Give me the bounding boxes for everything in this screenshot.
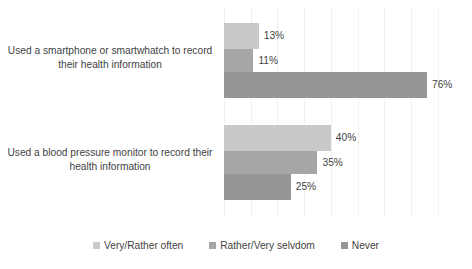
legend-swatch-icon-2 xyxy=(341,242,348,249)
legend-label-1: Rather/Very selvdom xyxy=(220,240,315,251)
category-label-0: Used a smartphone or smartwhatch to reco… xyxy=(4,44,216,71)
legend-label-2: Never xyxy=(352,240,379,251)
legend-item-1[interactable]: Rather/Very selvdom xyxy=(209,240,315,251)
legend-label-0: Very/Rather often xyxy=(104,240,183,251)
legend-item-2[interactable]: Never xyxy=(341,240,379,251)
bar-1-0 xyxy=(224,125,331,151)
horizontal-bar-chart: Used a smartphone or smartwhatch to reco… xyxy=(0,0,472,269)
bar-value-label-0-0: 13% xyxy=(264,31,284,41)
bar-value-label-0-1: 11% xyxy=(258,56,278,66)
bar-value-label-1-1: 35% xyxy=(322,158,342,168)
legend-swatch-icon-1 xyxy=(209,242,216,249)
gridline xyxy=(411,8,412,217)
gridline xyxy=(384,8,385,217)
gridline xyxy=(331,8,332,217)
plot-area: 13%11%76%40%35%25% xyxy=(224,8,470,217)
gridline xyxy=(438,8,439,217)
legend-swatch-icon-0 xyxy=(93,242,100,249)
category-label-1: Used a blood pressure monitor to record … xyxy=(4,146,216,173)
bar-1-1 xyxy=(224,151,317,174)
bar-value-label-1-0: 40% xyxy=(336,133,356,143)
bar-value-label-0-2: 76% xyxy=(432,80,452,90)
bar-1-2 xyxy=(224,174,291,200)
bar-0-1 xyxy=(224,49,253,72)
gridline xyxy=(358,8,359,217)
chart-legend: Very/Rather oftenRather/Very selvdomNeve… xyxy=(0,240,472,251)
bar-0-2 xyxy=(224,72,427,98)
legend-item-0[interactable]: Very/Rather often xyxy=(93,240,183,251)
bar-0-0 xyxy=(224,23,259,49)
bar-value-label-1-2: 25% xyxy=(296,182,316,192)
